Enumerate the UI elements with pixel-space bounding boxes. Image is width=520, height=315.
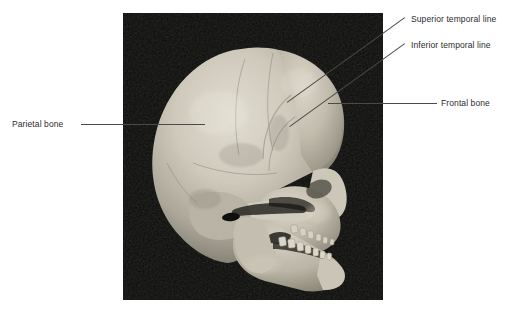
skull-photograph-image [123, 13, 383, 300]
label-frontal-bone: Frontal bone [441, 98, 490, 108]
leader-parietal-bone [81, 124, 205, 125]
label-parietal-bone: Parietal bone [12, 119, 63, 129]
anatomical-figure: Parietal bone Superior temporal line Inf… [0, 0, 520, 315]
label-superior-temporal-line: Superior temporal line [411, 14, 496, 24]
skull-photograph [123, 13, 383, 300]
label-inferior-temporal-line: Inferior temporal line [411, 40, 491, 50]
leader-frontal-bone [328, 103, 437, 104]
